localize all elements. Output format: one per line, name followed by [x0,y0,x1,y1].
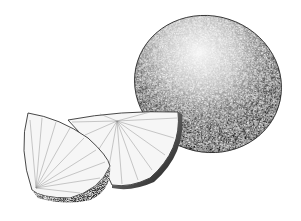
illustration [0,0,301,221]
citrus-illustration [0,0,301,221]
